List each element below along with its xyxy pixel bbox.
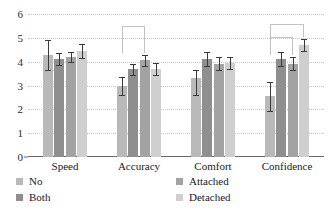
y-tick-label-3: 3 [18, 80, 24, 91]
error-cap-upper [79, 44, 85, 45]
legend-label: Detached [189, 192, 231, 203]
error-cap-lower [290, 70, 296, 71]
x-axis-label-comfort: Comfort [194, 161, 231, 172]
error-cap-lower [68, 62, 74, 63]
error-cap-lower [301, 51, 307, 52]
error-bar-confidence-detached [304, 39, 305, 51]
error-cap-upper [119, 77, 125, 78]
bar-comfort-attached[interactable] [214, 64, 224, 157]
error-cap-lower [204, 66, 210, 67]
error-bar-comfort-detached [230, 57, 231, 69]
bar-group-comfort: Comfort [176, 14, 250, 157]
error-cap-upper [216, 57, 222, 58]
x-axis-label-accuracy: Accuracy [118, 161, 160, 172]
bar-accuracy-attached[interactable] [140, 60, 150, 157]
legend-label: Attached [189, 176, 229, 187]
error-bar-accuracy-detached [156, 63, 157, 75]
bar-accuracy-both[interactable] [128, 69, 138, 157]
bar-confidence-both[interactable] [276, 59, 286, 157]
bar-confidence-detached[interactable] [299, 45, 309, 157]
legend-swatch-icon [176, 178, 183, 185]
error-bar-confidence-no [270, 82, 271, 111]
error-bar-comfort-attached [219, 57, 220, 70]
error-cap-upper [301, 39, 307, 40]
bar-accuracy-detached[interactable] [151, 69, 161, 157]
y-tick-label-6: 6 [18, 9, 24, 20]
error-cap-lower [119, 95, 125, 96]
y-tick-label-4: 4 [18, 56, 24, 67]
x-axis-label-speed: Speed [52, 161, 79, 172]
y-tick-label-0: 0 [18, 152, 24, 163]
bar-chart-figure: 6543210SpeedAccuracyComfortConfidence No… [0, 0, 330, 213]
error-cap-lower [278, 66, 284, 67]
legend-swatch-icon [16, 178, 23, 185]
bar-comfort-both[interactable] [202, 59, 212, 157]
legend-item-attached[interactable]: Attached [176, 176, 229, 187]
legend-swatch-icon [176, 194, 183, 201]
error-cap-lower [193, 95, 199, 96]
confidence-bracket-inner [270, 37, 293, 55]
error-cap-upper [193, 70, 199, 71]
error-cap-upper [204, 52, 210, 53]
error-cap-upper [227, 57, 233, 58]
legend-label: No [29, 176, 42, 187]
bar-accuracy-no[interactable] [117, 86, 127, 158]
legend-swatch-icon [16, 194, 23, 201]
error-bar-speed-no [48, 40, 49, 70]
error-cap-upper [130, 64, 136, 65]
error-cap-lower [45, 70, 51, 71]
y-tick-label-2: 2 [18, 104, 24, 115]
error-cap-upper [290, 57, 296, 58]
error-cap-upper [45, 40, 51, 41]
error-cap-lower [56, 65, 62, 66]
bar-group-speed: Speed [28, 14, 102, 157]
error-cap-upper [142, 55, 148, 56]
error-cap-upper [68, 52, 74, 53]
error-cap-lower [79, 58, 85, 59]
error-cap-upper [153, 63, 159, 64]
bar-confidence-attached[interactable] [288, 64, 298, 157]
bars-container [28, 14, 102, 157]
bar-comfort-detached[interactable] [225, 63, 235, 157]
chart-legend: NoAttachedBothDetached [16, 176, 316, 210]
error-cap-lower [216, 70, 222, 71]
error-cap-lower [142, 66, 148, 67]
error-cap-lower [130, 75, 136, 76]
plot-area: 6543210SpeedAccuracyComfortConfidence [28, 14, 324, 157]
error-bar-accuracy-attached [145, 55, 146, 67]
error-bar-confidence-attached [293, 57, 294, 70]
error-bar-speed-attached [71, 52, 72, 62]
legend-item-detached[interactable]: Detached [176, 192, 231, 203]
error-cap-lower [267, 111, 273, 112]
legend-item-no[interactable]: No [16, 176, 42, 187]
x-axis-label-confidence: Confidence [262, 161, 313, 172]
bar-speed-detached[interactable] [77, 51, 87, 157]
error-bar-accuracy-both [133, 64, 134, 75]
bar-speed-attached[interactable] [66, 57, 76, 157]
error-bar-comfort-both [207, 52, 208, 66]
accuracy-bracket [122, 26, 145, 53]
error-cap-lower [153, 75, 159, 76]
error-bar-speed-detached [82, 44, 83, 58]
error-bar-accuracy-no [122, 77, 123, 95]
error-bar-speed-both [59, 53, 60, 65]
y-tick-label-5: 5 [18, 32, 24, 43]
confidence-bracket-outer [270, 24, 304, 37]
error-cap-upper [56, 53, 62, 54]
legend-item-both[interactable]: Both [16, 192, 50, 203]
error-cap-upper [267, 82, 273, 83]
error-bar-comfort-no [196, 70, 197, 95]
bars-container [176, 14, 250, 157]
legend-label: Both [29, 192, 50, 203]
bar-speed-both[interactable] [54, 59, 64, 157]
y-tick-label-1: 1 [18, 128, 24, 139]
error-cap-lower [227, 69, 233, 70]
